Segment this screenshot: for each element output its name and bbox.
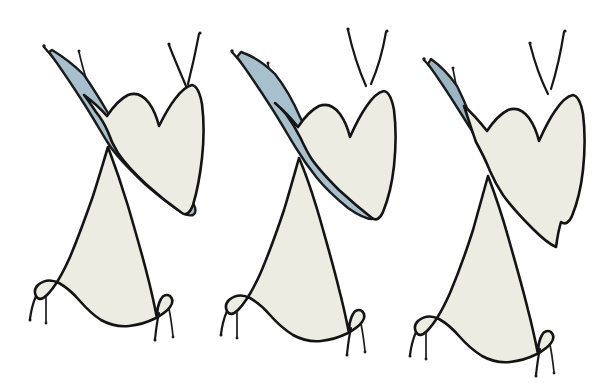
root-tip-dot — [172, 336, 175, 339]
root-tip-dot — [167, 42, 170, 45]
root-tip-dot — [409, 355, 412, 358]
root-tip-dot — [198, 31, 201, 34]
root-tip-dot — [425, 358, 428, 361]
root-tip-dot — [346, 27, 349, 30]
root-tip-dot — [452, 67, 455, 70]
root-tip-dot — [236, 337, 239, 340]
root-tip-dot — [346, 354, 349, 357]
root-tip-dot — [154, 339, 157, 342]
root-tip-dot — [385, 29, 388, 32]
illustration-canvas — [0, 0, 611, 388]
root-tip-dot — [563, 29, 566, 32]
root-tip-dot — [528, 41, 531, 44]
root-tip-dot — [535, 375, 538, 378]
root-tip-dot — [553, 372, 556, 375]
root-tip-dot — [422, 57, 425, 60]
root-tip-dot — [230, 49, 233, 52]
root-tip-dot — [364, 351, 367, 354]
root-tip-dot — [78, 50, 81, 53]
root-tip-dot — [42, 44, 45, 47]
root-tip-dot — [29, 319, 32, 322]
root-tip-dot — [220, 334, 223, 337]
root-tip-dot — [267, 62, 270, 65]
root-tip-dot — [45, 322, 48, 325]
dental-illustration-figure: Progressive interproximal bone loss betw… — [0, 0, 611, 388]
